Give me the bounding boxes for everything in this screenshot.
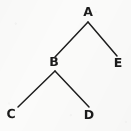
- edge-b-c: [18, 71, 55, 107]
- tree-edges-layer: [0, 0, 131, 131]
- tree-node-e: E: [114, 57, 123, 70]
- edge-group: [18, 22, 117, 107]
- edge-a-b: [55, 22, 88, 57]
- tree-node-d: D: [84, 109, 94, 122]
- tree-node-c: C: [6, 108, 15, 121]
- tree-diagram-figure: A B E C D: [0, 0, 131, 131]
- tree-node-b: B: [49, 56, 59, 69]
- edge-b-d: [55, 71, 89, 107]
- tree-node-a: A: [83, 6, 93, 19]
- edge-a-e: [88, 22, 117, 56]
